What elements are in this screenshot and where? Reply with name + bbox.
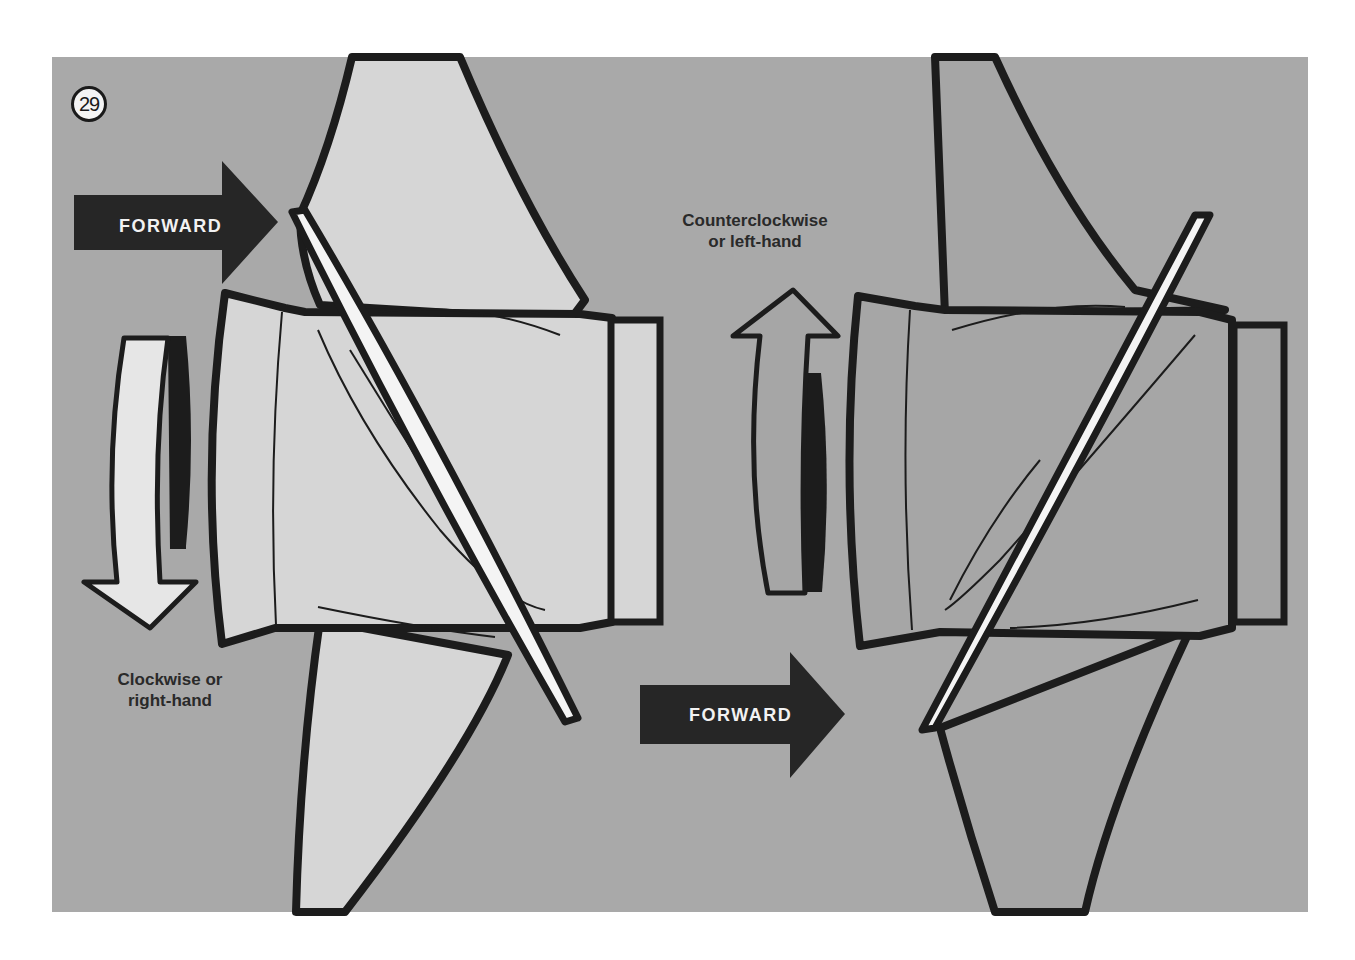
- left-rotation-shadow: [168, 336, 191, 549]
- left-hub-cap: [611, 320, 660, 622]
- right-hub: [849, 296, 1232, 646]
- figure-canvas: [0, 0, 1355, 960]
- figure-number: 29: [79, 93, 99, 116]
- left-forward-label: FORWARD: [119, 216, 222, 237]
- right-forward-label: FORWARD: [689, 705, 792, 726]
- right-rotation-label-line1: Counterclockwise: [660, 210, 850, 231]
- right-rotation-label: Counterclockwise or left-hand: [660, 210, 850, 252]
- figure-number-badge: 29: [71, 86, 107, 122]
- left-rotation-label-line1: Clockwise or: [90, 669, 250, 690]
- left-rotation-label-line2: right-hand: [90, 690, 250, 711]
- left-hub: [212, 293, 612, 644]
- right-rotation-label-line2: or left-hand: [660, 231, 850, 252]
- left-rotation-label: Clockwise or right-hand: [90, 669, 250, 711]
- right-hub-cap: [1234, 325, 1284, 622]
- propeller-rotation-figure: 29 FORWARD FORWARD Clockwise or right-ha…: [0, 0, 1355, 960]
